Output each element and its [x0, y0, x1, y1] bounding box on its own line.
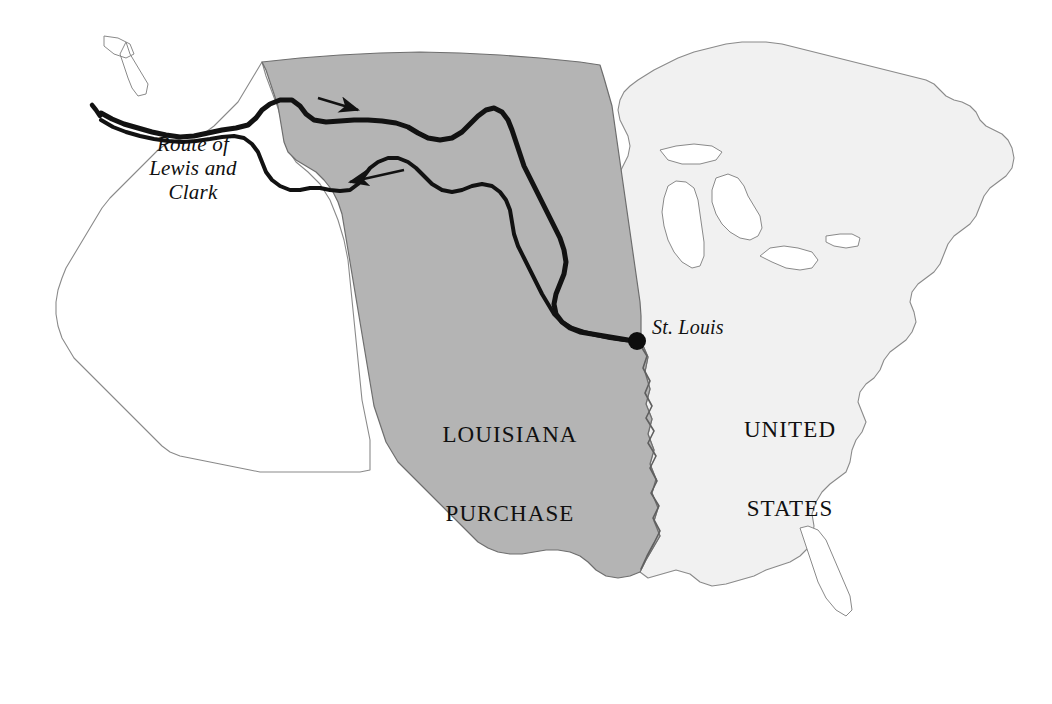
map-canvas [0, 0, 1052, 704]
northwest-coast-detail [104, 36, 148, 96]
st-louis-label: St. Louis [652, 316, 724, 339]
louisiana-purchase-map: Route of Lewis and Clark St. Louis LOUIS… [0, 0, 1052, 704]
puget-sound-icon [120, 42, 148, 96]
st-louis-dot [628, 332, 646, 350]
vancouver-island-icon [104, 36, 134, 58]
louisiana-purchase-label: LOUISIANA PURCHASE [410, 370, 610, 580]
route-pacific-terminus [92, 105, 100, 116]
route-label: Route of Lewis and Clark [108, 133, 278, 205]
united-states-label-line2: STATES [700, 496, 880, 522]
united-states-label-line1: UNITED [700, 417, 880, 443]
united-states-label: UNITED STATES [700, 365, 880, 575]
louisiana-purchase-label-line1: LOUISIANA [410, 422, 610, 448]
louisiana-purchase-label-line2: PURCHASE [410, 501, 610, 527]
